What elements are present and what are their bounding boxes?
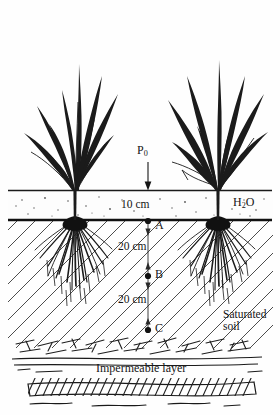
rocky-transition-layer — [16, 338, 250, 354]
right-plant-roots — [178, 216, 255, 306]
point-a-label: A — [155, 219, 164, 232]
applied-pressure-label: P0 — [137, 144, 148, 159]
water-label: H2O — [233, 196, 254, 211]
left-plant-roots — [35, 216, 112, 306]
impermeable-layer-band — [26, 376, 256, 398]
point-b-label: B — [155, 268, 163, 281]
figure-canvas: P0 10 cm H2O A 20 cm B 20 cm C Saturated… — [0, 0, 280, 415]
saturated-soil-label: Saturated soil — [223, 308, 266, 332]
spacing-bc-label: 20 cm — [118, 293, 146, 305]
impermeable-layer-label: Impermeable layer — [96, 362, 186, 375]
measurement-point-a — [145, 218, 151, 224]
spacing-ab-label: 20 cm — [118, 240, 146, 252]
lower-substrate-dashes — [30, 403, 240, 406]
pressure-head-arrow — [145, 162, 152, 191]
ponded-depth-label: 10 cm — [121, 198, 149, 210]
measurement-point-c — [145, 327, 151, 333]
measurement-point-b — [145, 273, 151, 279]
point-c-label: C — [155, 322, 163, 335]
